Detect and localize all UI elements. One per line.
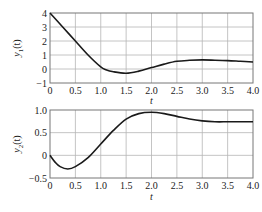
y-tick-label: 2 xyxy=(42,36,47,47)
x-tick-label: 3.0 xyxy=(196,85,209,96)
y-axis-label: y2(t) xyxy=(11,135,25,153)
y-tick-label: 1 xyxy=(42,50,47,61)
x-tick-label: 1.0 xyxy=(95,85,108,96)
x-tick-label: 2.5 xyxy=(171,85,184,96)
y-tick-label: −0.5 xyxy=(29,173,47,184)
x-tick-label: 0 xyxy=(48,180,53,191)
x-tick-label: 1.0 xyxy=(95,180,108,191)
y-tick-label: 0 xyxy=(42,150,47,161)
x-tick-label: 0.5 xyxy=(69,180,82,191)
x-tick-label: 4.0 xyxy=(247,85,260,96)
plot-y1: 00.51.01.52.02.53.03.54.043210−1ty1(t) xyxy=(11,8,259,107)
y-tick-label: 0.5 xyxy=(35,127,48,138)
x-tick-label: 3.0 xyxy=(196,180,209,191)
x-tick-label: 3.5 xyxy=(221,85,234,96)
y-tick-label: −1 xyxy=(36,78,47,89)
chart-figure: 00.51.01.52.02.53.03.54.043210−1ty1(t) 0… xyxy=(0,0,262,212)
x-tick-label: 3.5 xyxy=(221,180,234,191)
y-tick-label: 3 xyxy=(42,22,47,33)
x-tick-label: 4.0 xyxy=(247,180,260,191)
plot-y2: 00.51.01.52.02.53.03.54.01.00.50−0.5ty2(… xyxy=(11,105,259,203)
x-tick-label: 0.5 xyxy=(69,85,82,96)
x-tick-label: 0 xyxy=(48,85,53,96)
x-axis-label: t xyxy=(150,191,153,202)
x-axis-label: t xyxy=(150,95,153,106)
y-axis-label: y1(t) xyxy=(11,39,25,57)
x-tick-label: 1.5 xyxy=(120,180,133,191)
x-tick-label: 2.0 xyxy=(145,180,158,191)
y-tick-label: 1.0 xyxy=(35,105,48,116)
y-tick-label: 4 xyxy=(42,8,47,19)
x-tick-label: 1.5 xyxy=(120,85,133,96)
y-tick-label: 0 xyxy=(42,64,47,75)
x-tick-label: 2.5 xyxy=(171,180,184,191)
